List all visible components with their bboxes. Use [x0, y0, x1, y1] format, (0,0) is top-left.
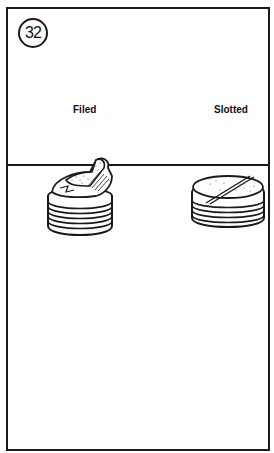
slotted-plug-icon	[192, 176, 264, 227]
filed-plug-icon	[48, 158, 112, 235]
illustration	[0, 0, 274, 453]
